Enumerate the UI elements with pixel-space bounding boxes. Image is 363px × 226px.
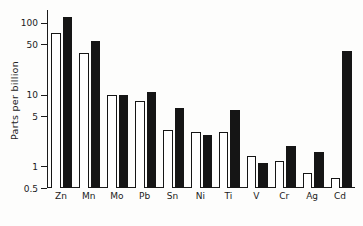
- y-axis-title: Parts per billion: [4, 0, 26, 200]
- y-axis-tick-label: 1: [32, 162, 38, 172]
- x-axis-label-cr: Cr: [270, 191, 298, 201]
- bar-group: [51, 10, 72, 188]
- bar-group: [247, 10, 268, 188]
- bars-layer: [48, 10, 355, 188]
- x-axis-label-zn: Zn: [47, 191, 75, 201]
- bar-v-filled: [258, 163, 268, 188]
- bar-mo-filled: [119, 95, 129, 188]
- x-axis-label-pb: Pb: [131, 191, 159, 201]
- bar-ni-filled: [203, 135, 213, 188]
- x-axis-label-cd: Cd: [326, 191, 354, 201]
- bar-ni-open: [191, 132, 201, 188]
- bar-group: [331, 10, 352, 188]
- bar-sn-open: [163, 130, 173, 188]
- trace-element-bar-chart: Parts per billion 1005010510.5 ZnMnMoPbS…: [0, 0, 363, 226]
- y-axis-tick-label: 10: [27, 90, 38, 100]
- x-axis-label-mo: Mo: [103, 191, 131, 201]
- bar-pb-open: [135, 101, 145, 188]
- bar-pb-filled: [147, 92, 157, 188]
- bar-v-open: [247, 156, 257, 188]
- bar-cd-filled: [342, 51, 352, 188]
- bar-ti-filled: [230, 110, 240, 188]
- bar-zn-filled: [63, 17, 73, 188]
- x-axis-label-ag: Ag: [298, 191, 326, 201]
- x-axis-label-ni: Ni: [187, 191, 215, 201]
- bar-zn-open: [51, 33, 61, 188]
- bar-mo-open: [107, 95, 117, 188]
- bar-ti-open: [219, 132, 229, 188]
- y-axis-tick-label: 100: [21, 18, 38, 28]
- bar-mn-open: [79, 53, 89, 188]
- y-axis-tick: 50: [41, 44, 47, 45]
- bar-group: [107, 10, 128, 188]
- bar-group: [191, 10, 212, 188]
- y-axis-tick: 5: [41, 116, 47, 117]
- bar-cd-open: [331, 178, 341, 189]
- x-axis-label-v: V: [242, 191, 270, 201]
- y-axis-tick-label: 5: [32, 112, 38, 122]
- x-axis-labels: ZnMnMoPbSnNiTiVCrAgCd: [47, 191, 355, 209]
- y-axis-tick: 0.5: [41, 188, 47, 189]
- bar-cr-filled: [286, 146, 296, 188]
- y-axis-tick-label: 50: [27, 40, 38, 50]
- bar-group: [275, 10, 296, 188]
- y-axis-title-text: Parts per billion: [10, 60, 21, 139]
- bar-cr-open: [275, 161, 285, 188]
- bar-group: [303, 10, 324, 188]
- x-axis-label-ti: Ti: [214, 191, 242, 201]
- y-axis-tick-label: 0.5: [24, 184, 38, 194]
- bar-group: [219, 10, 240, 188]
- bar-sn-filled: [175, 108, 185, 188]
- y-axis-tick: 100: [41, 23, 47, 24]
- bar-ag-open: [303, 173, 313, 188]
- x-axis-label-sn: Sn: [159, 191, 187, 201]
- plot-area: 1005010510.5: [47, 10, 355, 188]
- bar-ag-filled: [314, 152, 324, 188]
- bar-mn-filled: [91, 41, 101, 188]
- y-axis-tick: 10: [41, 95, 47, 96]
- bar-group: [135, 10, 156, 188]
- bar-group: [79, 10, 100, 188]
- bar-group: [163, 10, 184, 188]
- x-axis-label-mn: Mn: [75, 191, 103, 201]
- y-axis-tick: 1: [41, 166, 47, 167]
